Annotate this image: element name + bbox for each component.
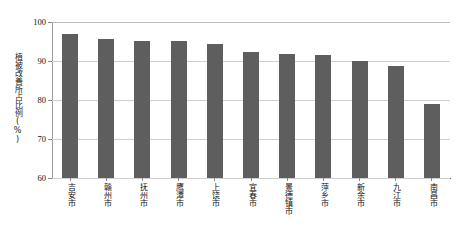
x-label-slot: 萍乡市 xyxy=(305,183,341,231)
bar xyxy=(388,66,404,178)
x-tick-mark xyxy=(178,178,179,181)
x-tick-label: 九江市 xyxy=(392,183,400,207)
bar xyxy=(134,41,150,178)
bar-slot xyxy=(197,22,233,178)
y-axis-title-text: 植被改善所占比例(%) xyxy=(13,53,21,144)
y-tick-label: 70 xyxy=(38,134,47,144)
bar-slot xyxy=(378,22,414,178)
bar-slot xyxy=(269,22,305,178)
bar-slot xyxy=(342,22,378,178)
bar xyxy=(279,54,295,178)
bar xyxy=(424,104,440,178)
y-tick-label: 60 xyxy=(38,173,47,183)
x-tick-slot xyxy=(378,178,414,181)
x-tick-slot xyxy=(269,178,305,181)
x-tick-slot xyxy=(161,178,197,181)
x-tick-slot xyxy=(124,178,160,181)
bar xyxy=(243,52,259,178)
x-tick-mark xyxy=(395,178,396,181)
x-tick-label: 景德镇市 xyxy=(283,183,291,215)
bar xyxy=(207,44,223,178)
x-tick-mark xyxy=(142,178,143,181)
bar-slot xyxy=(305,22,341,178)
bar-slot xyxy=(124,22,160,178)
y-tick-label: 90 xyxy=(38,56,47,66)
x-tick-slot xyxy=(414,178,450,181)
bar-slot xyxy=(161,22,197,178)
bar-slot xyxy=(233,22,269,178)
x-tick-slot xyxy=(342,178,378,181)
x-tick-slot xyxy=(305,178,341,181)
x-label-slot: 九江市 xyxy=(378,183,414,231)
bar-slot xyxy=(88,22,124,178)
bar-slot xyxy=(52,22,88,178)
bar-series xyxy=(52,22,450,178)
x-label-slot: 南昌市 xyxy=(414,183,450,231)
x-tick-label: 新余市 xyxy=(356,183,364,207)
x-label-slot: 上饶市 xyxy=(197,183,233,231)
x-tick-label: 抚州市 xyxy=(138,183,146,207)
x-tick-label: 萍乡市 xyxy=(319,183,327,207)
bar xyxy=(171,41,187,178)
bar xyxy=(98,39,114,178)
x-tick-slot xyxy=(233,178,269,181)
y-axis-title: 植被改善所占比例(%) xyxy=(10,18,24,178)
y-tick-label: 80 xyxy=(38,95,47,105)
y-tick-label: 100 xyxy=(33,17,46,27)
x-tick-slot xyxy=(88,178,124,181)
x-tick-mark xyxy=(359,178,360,181)
x-tick-label: 南昌市 xyxy=(428,183,436,207)
x-axis-ticks xyxy=(52,178,450,181)
x-tick-label: 赣州市 xyxy=(102,183,110,207)
x-label-slot: 宜春市 xyxy=(233,183,269,231)
x-label-slot: 抚州市 xyxy=(124,183,160,231)
x-tick-label: 吉安市 xyxy=(66,183,74,207)
x-label-slot: 吉安市 xyxy=(52,183,88,231)
bar xyxy=(352,61,368,178)
x-tick-mark xyxy=(70,178,71,181)
x-tick-slot xyxy=(197,178,233,181)
x-axis-labels: 吉安市赣州市抚州市鹰潭市上饶市宜春市景德镇市萍乡市新余市九江市南昌市 xyxy=(52,183,450,231)
x-tick-mark xyxy=(214,178,215,181)
x-tick-mark xyxy=(431,178,432,181)
x-label-slot: 鹰潭市 xyxy=(161,183,197,231)
bar xyxy=(62,34,78,178)
bar xyxy=(315,55,331,178)
x-tick-mark xyxy=(323,178,324,181)
x-tick-label: 上饶市 xyxy=(211,183,219,207)
x-tick-mark xyxy=(251,178,252,181)
plot-area: 10090807060 xyxy=(52,22,450,178)
x-label-slot: 赣州市 xyxy=(88,183,124,231)
x-label-slot: 新余市 xyxy=(342,183,378,231)
bar-slot xyxy=(414,22,450,178)
x-label-slot: 景德镇市 xyxy=(269,183,305,231)
bar-chart-figure: 植被改善所占比例(%) 10090807060 吉安市赣州市抚州市鹰潭市上饶市宜… xyxy=(0,0,469,231)
x-tick-label: 宜春市 xyxy=(247,183,255,207)
x-tick-slot xyxy=(52,178,88,181)
x-tick-mark xyxy=(287,178,288,181)
x-tick-label: 鹰潭市 xyxy=(175,183,183,207)
x-tick-mark xyxy=(106,178,107,181)
